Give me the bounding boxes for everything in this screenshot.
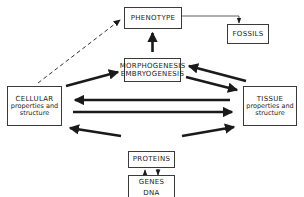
fossils-label: FOSSILS — [233, 30, 264, 38]
phenotype-label: PHENOTYPE — [131, 14, 176, 22]
node-tissue: TISSUE properties and structure — [243, 86, 297, 126]
genes-label: GENES — [139, 178, 164, 186]
morphogenesis-label: MORPHOGENESIS — [120, 62, 186, 70]
node-proteins: PROTEINS — [128, 151, 175, 168]
arrow-phenotype-to-fossils — [182, 16, 239, 23]
arrow-proteins-to-tissue — [182, 127, 234, 136]
arrow-proteins-to-cellular — [70, 128, 121, 136]
cellular-line3: structure — [20, 110, 50, 117]
node-morphogenesis: MORPHOGENESIS EMBRYOGENESIS — [124, 58, 181, 82]
arrow-cellular-to-morphogenesis — [66, 72, 118, 86]
node-fossils: FOSSILS — [227, 24, 269, 44]
dna-label: DNA — [143, 189, 159, 197]
arrow-morphogenesis-to-tissue — [186, 77, 237, 90]
node-genes-dna: GENES DNA — [128, 175, 175, 197]
embryogenesis-label: EMBRYOGENESIS — [121, 70, 184, 78]
node-phenotype: PHENOTYPE — [124, 7, 182, 29]
node-cellular: CELLULAR properties and structure — [7, 86, 62, 126]
proteins-label: PROTEINS — [133, 155, 170, 163]
tissue-line3: structure — [255, 110, 285, 117]
